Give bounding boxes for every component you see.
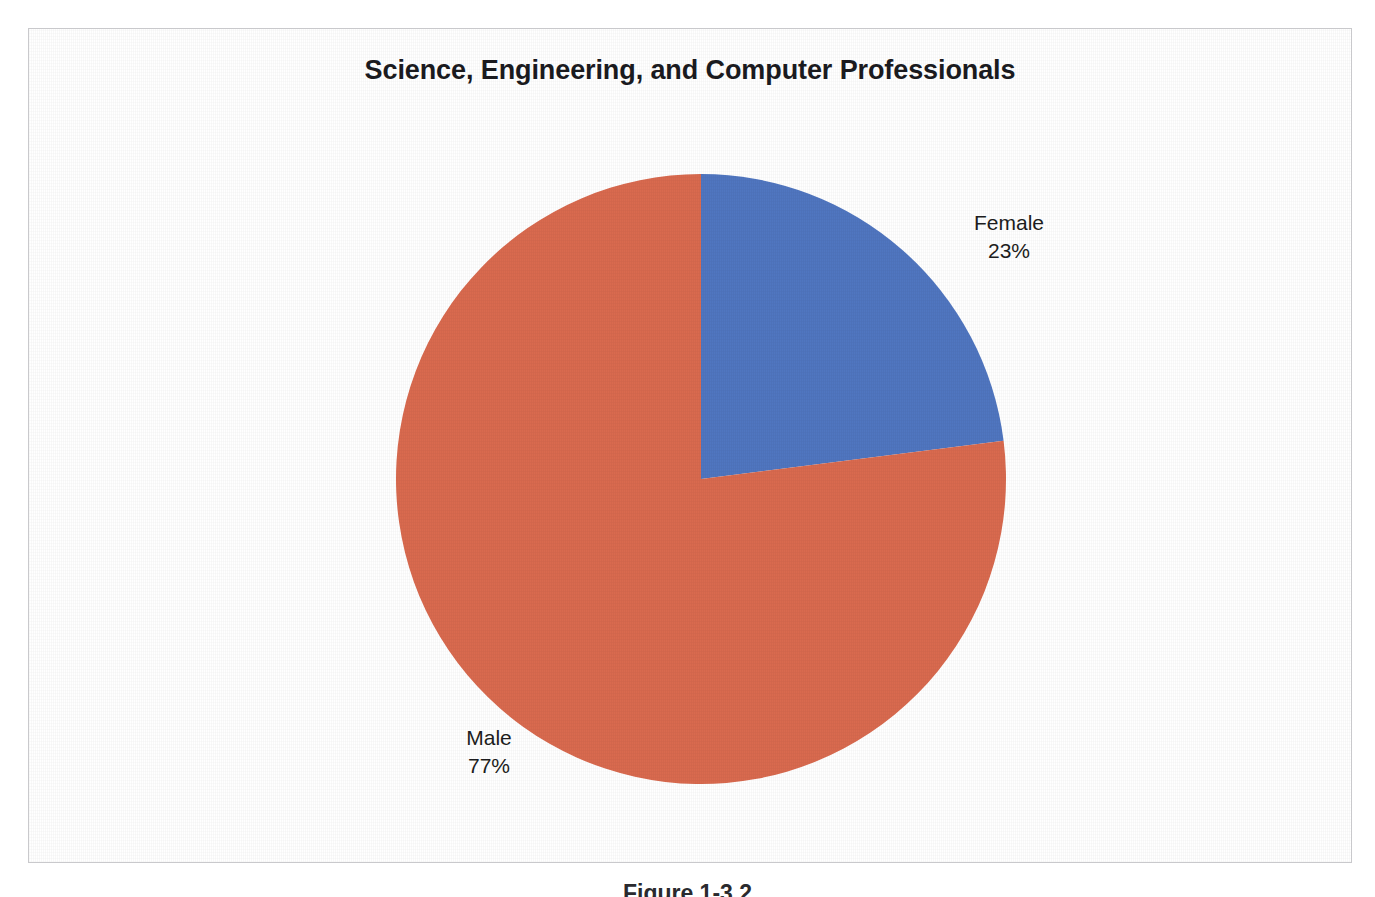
slice-label-male-value: 77% [404,752,574,780]
slice-label-female-value: 23% [924,237,1094,265]
chart-title: Science, Engineering, and Computer Profe… [29,55,1351,86]
pie-chart [395,173,1007,785]
figure-caption: Figure 1-3.2 [0,880,1375,897]
pie-chart-svg [395,173,1007,785]
slice-label-male-name: Male [404,724,574,752]
pie-slice-group [396,174,1006,784]
figure-frame: Science, Engineering, and Computer Profe… [28,28,1352,863]
slice-label-female: Female 23% [924,209,1094,264]
slice-label-female-name: Female [924,209,1094,237]
slice-label-male: Male 77% [404,724,574,779]
